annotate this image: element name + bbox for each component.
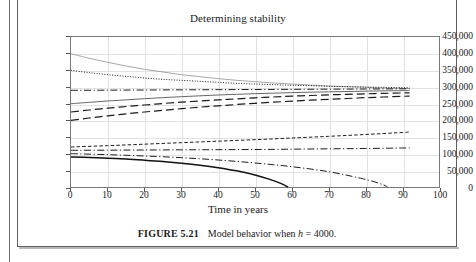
x-tick-mark bbox=[329, 188, 330, 192]
x-tick-mark bbox=[440, 188, 441, 192]
curve-layer bbox=[71, 37, 439, 187]
figure-shadow bbox=[19, 247, 459, 249]
curve-start-350000 bbox=[71, 70, 410, 87]
caption-text-b: = 4000. bbox=[306, 228, 337, 239]
x-tick-mark bbox=[292, 188, 293, 192]
x-tick-mark bbox=[144, 188, 145, 192]
x-tick-mark bbox=[403, 188, 404, 192]
caption-variable: h bbox=[298, 228, 303, 239]
curve-start-110000 bbox=[71, 148, 410, 150]
plot-area bbox=[70, 36, 440, 188]
x-tick-mark bbox=[181, 188, 182, 192]
x-tick-mark bbox=[70, 188, 71, 192]
curve-start-290000 bbox=[71, 89, 410, 91]
curve-start-250000 bbox=[71, 90, 410, 103]
x-tick-mark bbox=[107, 188, 108, 192]
curve-start-90000-crash bbox=[71, 157, 288, 187]
chart-title: Determining stability bbox=[0, 12, 476, 24]
figure-caption: FIGURE 5.21Model behavior when h = 4000. bbox=[17, 228, 457, 239]
x-axis-label: Time in years bbox=[0, 203, 476, 215]
curve-start-120000 bbox=[71, 132, 410, 147]
caption-text-a: Model behavior when bbox=[208, 228, 296, 239]
x-tick-mark bbox=[366, 188, 367, 192]
figure-page: Determining stability 050,000100,000150,… bbox=[0, 0, 476, 262]
curve-start-225000 bbox=[71, 93, 410, 112]
caption-label: FIGURE 5.21 bbox=[138, 228, 199, 239]
x-tick-mark bbox=[218, 188, 219, 192]
curve-start-400000 bbox=[71, 54, 410, 89]
x-tick-mark bbox=[255, 188, 256, 192]
page-edge-rule bbox=[9, 0, 10, 262]
